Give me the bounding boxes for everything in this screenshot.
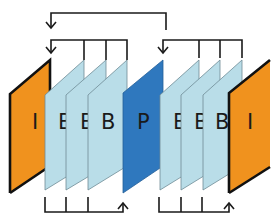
reference-bracket-top-left xyxy=(46,40,127,60)
reference-bracket-bottom-left xyxy=(45,197,128,212)
frame-p: P xyxy=(123,60,163,193)
frame-b-3-label: B xyxy=(101,110,115,134)
gop-diagram: I B B B P B B B I xyxy=(0,0,279,222)
frame-p-label: P xyxy=(137,110,150,134)
reference-bracket-top-right xyxy=(158,40,242,58)
frame-i-right-label: I xyxy=(247,110,253,134)
frame-i-left: I xyxy=(10,60,50,193)
frame-i-left-label: I xyxy=(32,110,38,134)
reference-arrow-p-to-i-top xyxy=(46,13,166,30)
frame-i-left-shape xyxy=(10,60,50,193)
frame-b-7-label: B xyxy=(215,110,229,134)
reference-bracket-bottom-right xyxy=(159,197,234,212)
